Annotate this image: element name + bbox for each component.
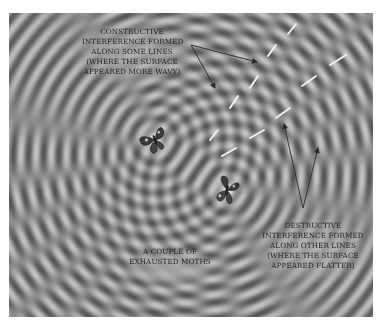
arrows: [191, 45, 318, 208]
label-line: interference formed: [260, 231, 366, 241]
label-line: along some lines: [82, 47, 182, 57]
label-line: Constructive: [82, 27, 182, 37]
annotation-overlay: [0, 0, 384, 327]
destructive-interference-label: Destructive interference formed along ot…: [260, 221, 366, 271]
destructive-arrow: [303, 148, 318, 208]
moth-icon-1: [137, 122, 173, 158]
constructive-line-dash: [210, 130, 218, 140]
destructive-line-dash: [250, 130, 264, 138]
constructive-line-dash: [288, 24, 296, 34]
label-line: appeared flatter): [260, 261, 366, 271]
label-line: Destructive: [260, 221, 366, 231]
constructive-line-dash: [230, 96, 238, 108]
destructive-line-dash: [222, 148, 236, 156]
label-line: appeared more wavy): [82, 67, 182, 77]
label-line: A couple of: [125, 247, 215, 257]
destructive-line-dash: [330, 55, 346, 65]
destructive-line-dash: [302, 76, 316, 86]
label-line: exhausted moths: [125, 257, 215, 267]
destructive-arrow: [284, 124, 303, 208]
destructive-line-dash: [276, 108, 290, 118]
label-line: (where the surface: [82, 57, 182, 67]
moth-icon-2: [211, 174, 243, 206]
constructive-line-dash: [250, 76, 258, 88]
label-line: along other lines: [260, 241, 366, 251]
constructive-arrow: [191, 45, 257, 62]
dashed-lines: [210, 24, 346, 156]
label-line: (where the surface: [260, 251, 366, 261]
constructive-arrow: [191, 45, 215, 88]
moths-label: A couple of exhausted moths: [125, 247, 215, 267]
label-line: interference formed: [82, 37, 182, 47]
constructive-interference-label: Constructive interference formed along s…: [82, 27, 182, 77]
constructive-line-dash: [268, 45, 276, 56]
